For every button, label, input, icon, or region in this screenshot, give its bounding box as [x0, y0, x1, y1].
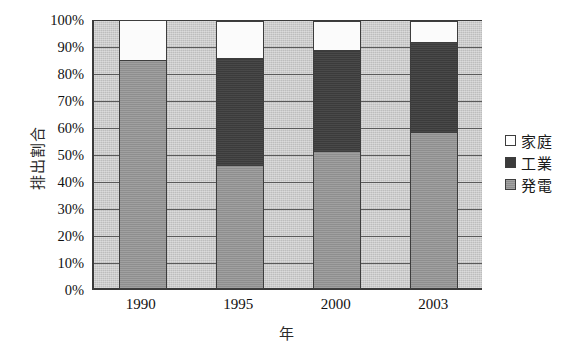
bar-segment-発電[interactable] — [216, 165, 264, 289]
x-axis-tick-label: 1990 — [117, 296, 165, 313]
y-axis-tick-label: 10% — [32, 256, 84, 270]
legend-swatch-industry-icon — [505, 157, 516, 168]
bar-segment-発電[interactable] — [313, 151, 361, 289]
legend-item-household[interactable]: 家庭 — [505, 130, 571, 151]
bar-segment-家庭[interactable] — [410, 21, 458, 43]
bar-segment-工業[interactable] — [313, 50, 361, 153]
x-axis-tick-label: 2003 — [409, 296, 457, 313]
x-axis-tick-labels: 1990199520002003 — [92, 296, 482, 320]
legend-label: 発電 — [521, 174, 552, 195]
y-axis-tick-label: 60% — [32, 121, 84, 135]
bar-segment-工業[interactable] — [216, 58, 264, 166]
legend-swatch-household-icon — [505, 135, 516, 146]
legend-item-industry[interactable]: 工業 — [505, 152, 571, 173]
y-axis-tick-labels: 100%90%80%70%60%50%40%30%20%10%0% — [36, 20, 88, 290]
chart-legend: 家庭工業発電 — [505, 130, 571, 196]
y-axis-tick-label: 50% — [32, 148, 84, 162]
bar-segment-家庭[interactable] — [313, 21, 361, 51]
x-axis-title: 年 — [92, 322, 482, 343]
bar-segment-家庭[interactable] — [216, 21, 264, 59]
y-axis-tick-label: 70% — [32, 94, 84, 108]
column-2000[interactable] — [313, 20, 361, 288]
x-axis-tick-label: 2000 — [312, 296, 360, 313]
legend-item-power[interactable]: 発電 — [505, 174, 571, 195]
legend-label: 工業 — [521, 152, 552, 173]
bar-segment-発電[interactable] — [119, 60, 167, 290]
bar-segment-工業[interactable] — [410, 42, 458, 134]
x-axis-tick-label: 1995 — [214, 296, 262, 313]
column-2003[interactable] — [410, 20, 458, 288]
column-1995[interactable] — [216, 20, 264, 288]
legend-swatch-power-icon — [505, 179, 516, 190]
bar-segment-発電[interactable] — [410, 132, 458, 289]
chart-container: 排出割合 100%90%80%70%60%50%40%30%20%10%0% 1… — [0, 0, 573, 356]
legend-label: 家庭 — [521, 130, 552, 151]
bar-segment-家庭[interactable] — [119, 20, 167, 61]
y-axis-tick-label: 40% — [32, 175, 84, 189]
y-axis-tick-label: 0% — [32, 283, 84, 297]
column-1990[interactable] — [119, 20, 167, 288]
y-axis-tick-label: 30% — [32, 202, 84, 216]
plot-area — [92, 20, 482, 290]
y-axis-tick-label: 20% — [32, 229, 84, 243]
y-axis-tick-label: 100% — [32, 13, 84, 27]
y-axis-tick-label: 80% — [32, 67, 84, 81]
y-axis-tick-label: 90% — [32, 40, 84, 54]
column-group — [94, 20, 482, 288]
